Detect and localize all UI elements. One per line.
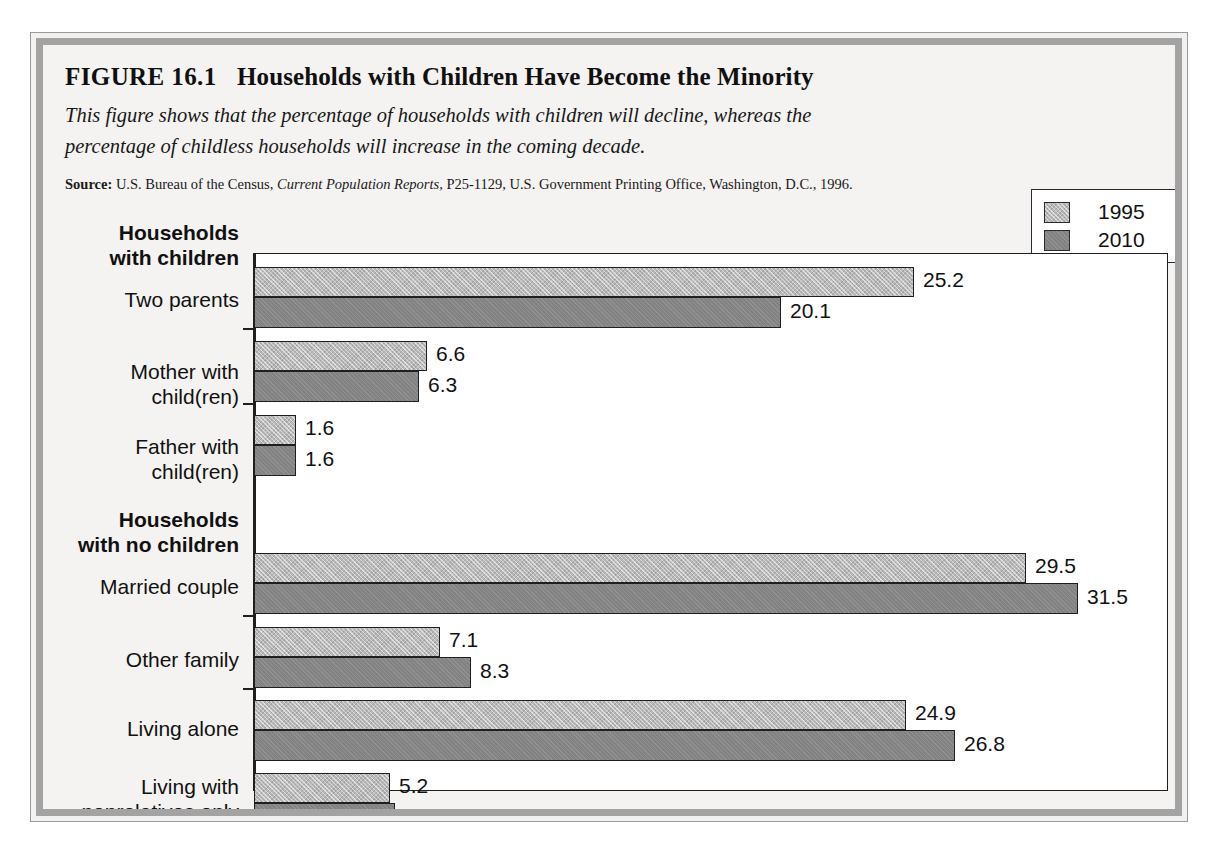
category-label-two-parents: Two parents [43,288,239,313]
bar-living-alone-2010 [254,730,955,761]
source-italic: Current Population Reports, [277,176,443,192]
figure-subtitle: This figure shows that the percentage of… [65,100,895,162]
bar-living-nonrelatives-1995 [254,773,390,803]
bar-other-family-2010 [254,657,471,688]
bar-two-parents-1995 [254,267,914,297]
bar-value-father-1995: 1.6 [305,416,334,440]
bar-living-nonrelatives-2010 [254,803,395,809]
bar-value-living-nonrelatives-1995: 5.2 [399,774,428,798]
axis-tick-4 [243,688,253,690]
legend-item-2010[interactable]: 2010 [1044,226,1175,254]
legend-label-1995: 1995 [1098,200,1145,224]
category-label-other-family: Other family [43,648,239,673]
figure-number: FIGURE 16.1 [65,63,217,90]
bar-living-alone-1995 [254,700,906,730]
category-label-living-with-nonrelatives: Living with nonrelatives only [43,775,239,809]
figure-source: Source: U.S. Bureau of the Census, Curre… [65,174,905,194]
bar-married-couple-2010 [254,583,1078,614]
source-text-2: P25-1129, U.S. Government Printing Offic… [443,176,853,192]
axis-tick-3 [243,615,253,617]
figure-heading: FIGURE 16.1 Households with Children Hav… [65,63,1065,194]
legend-swatch-1995-icon [1044,202,1070,223]
bar-value-other-family-1995: 7.1 [449,628,478,652]
bar-mother-2010 [254,371,419,402]
bar-value-two-parents-1995: 25.2 [923,268,964,292]
bar-two-parents-2010 [254,297,781,328]
bar-value-married-couple-1995: 29.5 [1035,554,1076,578]
bar-mother-1995 [254,341,427,371]
bar-value-married-couple-2010: 31.5 [1087,585,1128,609]
bar-father-1995 [254,415,296,445]
source-text-1: U.S. Bureau of the Census, [112,176,277,192]
bar-other-family-1995 [254,627,440,657]
group-heading-no-children: Households with no children [43,508,239,558]
category-label-living-alone: Living alone [43,717,239,742]
page-title: Households with Children Have Become the… [237,63,814,90]
source-label: Source: [65,176,112,192]
bar-value-other-family-2010: 8.3 [480,659,509,683]
category-label-father-with-children: Father with child(ren) [43,435,239,485]
group-heading-with-children: Households with children [43,221,239,271]
category-label-married-couple: Married couple [43,575,239,600]
axis-tick-2 [243,403,253,405]
figure-inner-border: FIGURE 16.1 Households with Children Hav… [36,38,1182,816]
bar-value-living-nonrelatives-2010: 5.4 [404,805,433,809]
bar-value-father-2010: 1.6 [305,447,334,471]
bar-value-mother-1995: 6.6 [436,342,465,366]
legend-item-1995[interactable]: 1995 [1044,198,1175,226]
bar-married-couple-1995 [254,553,1026,583]
bar-value-mother-2010: 6.3 [428,373,457,397]
bar-father-2010 [254,445,296,476]
chart-legend: 1995 2010 [1031,189,1175,263]
page-background: FIGURE 16.1 Households with Children Hav… [0,0,1221,868]
figure-surface: FIGURE 16.1 Households with Children Hav… [43,45,1175,809]
figure-title-line: FIGURE 16.1 Households with Children Hav… [65,63,1065,91]
bar-value-living-alone-1995: 24.9 [915,701,956,725]
legend-label-2010: 2010 [1098,228,1145,252]
bar-value-two-parents-2010: 20.1 [790,299,831,323]
axis-tick-1 [243,328,253,330]
figure-outer-frame: FIGURE 16.1 Households with Children Hav… [30,32,1188,822]
bar-value-living-alone-2010: 26.8 [964,732,1005,756]
legend-swatch-2010-icon [1044,230,1070,251]
category-label-mother-with-children: Mother with child(ren) [43,360,239,410]
